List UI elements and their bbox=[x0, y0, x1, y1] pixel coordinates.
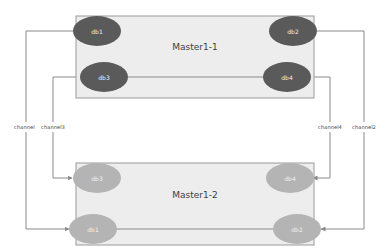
node-m2-db2[interactable]: db2 bbox=[273, 214, 321, 244]
master1-2-title: Master1-2 bbox=[172, 190, 217, 200]
replication-topology-diagram: Master1-1 db1 db2 db3 db4 bbox=[0, 0, 390, 251]
node-m1-db3[interactable]: db3 bbox=[80, 62, 128, 92]
channel2-label: channel2 bbox=[352, 124, 376, 130]
master1-1-title: Master1-1 bbox=[172, 42, 217, 52]
diagram-canvas: Master1-1 db1 db2 db3 db4 bbox=[0, 0, 390, 251]
node-m1-db2[interactable]: db2 bbox=[269, 16, 317, 46]
node-m1-db4[interactable]: db4 bbox=[263, 62, 311, 92]
node-m2-db1[interactable]: db1 bbox=[69, 214, 117, 244]
channel1-label: channel1 bbox=[14, 124, 38, 130]
channel4-label: channel4 bbox=[318, 124, 343, 130]
channel3-label: channel3 bbox=[41, 124, 65, 130]
node-m2-db4[interactable]: db4 bbox=[266, 163, 314, 193]
node-m1-db1[interactable]: db1 bbox=[73, 16, 121, 46]
node-m2-db3[interactable]: db3 bbox=[73, 163, 121, 193]
channel-labels: channel1 channel3 channel4 channel2 bbox=[8, 122, 382, 132]
